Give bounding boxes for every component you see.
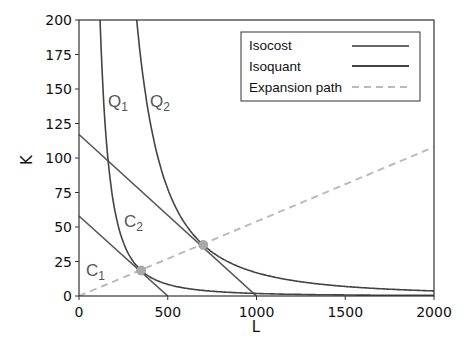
y-tick-label: 0 [63, 288, 72, 304]
legend-isocost-label: Isocost [249, 38, 292, 53]
legend-expansion-label: Expansion path [249, 80, 342, 95]
q1-label: Q1 [108, 92, 128, 114]
x-axis-label: L [252, 318, 261, 336]
y-tick-label: 125 [45, 116, 72, 132]
x-tick-label: 2000 [416, 304, 452, 320]
y-tick-label: 200 [45, 12, 72, 28]
y-tick-label: 100 [45, 150, 72, 166]
y-tick-label: 75 [54, 185, 72, 201]
isocost-c2 [79, 135, 257, 297]
y-axis-label: K [18, 154, 36, 165]
c1-label: C1 [86, 261, 105, 283]
tangency-point-1 [137, 266, 146, 275]
legend: Isocost Isoquant Expansion path [241, 32, 420, 101]
c2-label: C2 [124, 212, 143, 234]
tangency-point-2 [199, 240, 208, 249]
x-tick-label: 0 [75, 304, 84, 320]
x-tick-label: 1500 [327, 304, 363, 320]
y-tick-label: 150 [45, 81, 72, 97]
isoquant-isocost-chart: 05001000150020000255075100125150175200 I… [0, 0, 473, 349]
y-tick-label: 50 [54, 219, 72, 235]
y-tick-label: 175 [45, 47, 72, 63]
x-tick-label: 500 [154, 304, 181, 320]
y-tick-label: 25 [54, 254, 72, 270]
q2-label: Q2 [150, 92, 170, 114]
legend-isoquant-label: Isoquant [249, 59, 301, 74]
